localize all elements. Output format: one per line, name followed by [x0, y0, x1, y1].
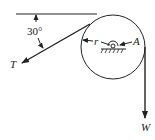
- weight-label: W: [141, 121, 151, 133]
- angle-arc-arrow: [38, 38, 43, 48]
- tension-label: T: [10, 58, 17, 70]
- pulley-disk: [81, 15, 145, 79]
- pivot-label: A: [132, 35, 140, 47]
- radius-arrow: [83, 40, 93, 41]
- pivot-arrow: [120, 42, 132, 45]
- angle-label: 30°: [27, 25, 42, 37]
- ground-hatch: [101, 49, 123, 53]
- radius-label: r: [94, 35, 99, 47]
- pulley-diagram: 30° T r A W: [0, 0, 155, 140]
- pivot-pin: [111, 44, 115, 48]
